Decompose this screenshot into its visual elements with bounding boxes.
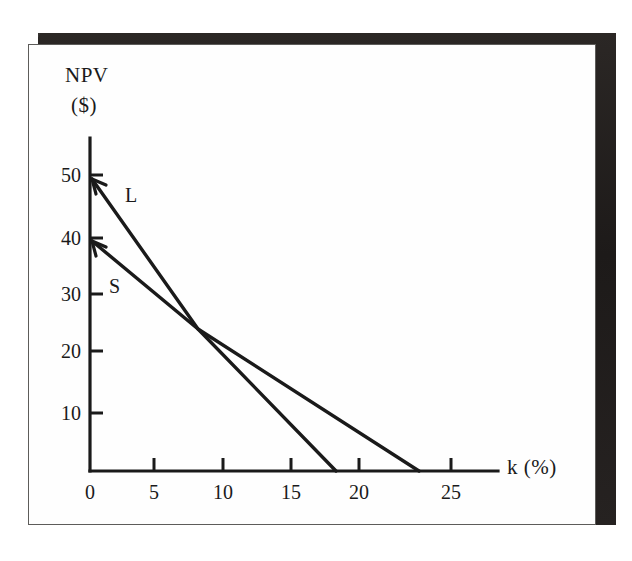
x-tick-label-10: 10 — [208, 482, 238, 502]
x-tick-label-5: 5 — [139, 482, 169, 502]
series-label-S: S — [109, 276, 120, 296]
x-tick-label-25: 25 — [436, 482, 466, 502]
x-axis-title: k (%) — [507, 457, 557, 478]
y-tick-label-30: 30 — [47, 284, 81, 304]
curve-series-S — [92, 241, 336, 471]
figure-card: NPV ($) k (%) 50 40 30 20 10 0 5 10 15 2… — [28, 44, 596, 525]
x-tick-label-0: 0 — [75, 482, 105, 502]
axes — [90, 138, 498, 471]
curve-series-L — [92, 179, 419, 471]
y-tick-label-50: 50 — [47, 165, 81, 185]
y-tick-label-20: 20 — [47, 341, 81, 361]
npv-profile-chart: NPV ($) k (%) 50 40 30 20 10 0 5 10 15 2… — [29, 45, 597, 526]
series-label-L: L — [125, 185, 137, 205]
y-tick-label-40: 40 — [47, 228, 81, 248]
y-axis-title: NPV — [65, 65, 109, 86]
y-tick-marks — [90, 175, 103, 413]
x-tick-label-15: 15 — [276, 482, 306, 502]
y-tick-label-10: 10 — [47, 403, 81, 423]
x-tick-label-20: 20 — [344, 482, 374, 502]
y-axis-unit: ($) — [71, 95, 97, 116]
